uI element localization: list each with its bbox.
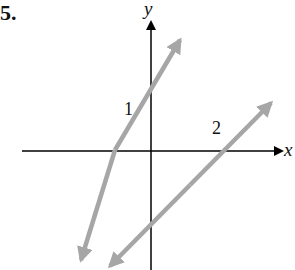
line-1 xyxy=(81,40,180,260)
y-axis-label: y xyxy=(144,0,152,20)
problem-number: 5. xyxy=(0,0,17,26)
line-2 xyxy=(110,103,271,266)
line-1-label: 1 xyxy=(124,99,133,120)
line-2-label: 2 xyxy=(212,118,221,139)
coordinate-plane xyxy=(0,0,295,270)
x-axis-label: x xyxy=(284,139,292,161)
